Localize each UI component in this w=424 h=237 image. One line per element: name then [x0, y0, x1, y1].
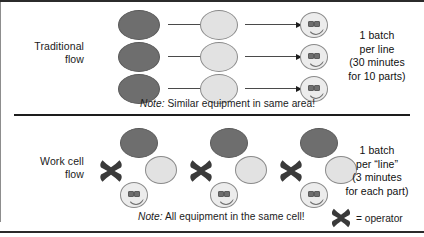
note-traditional-prefix: Note: — [140, 98, 165, 109]
traditional-line1-arrow2 — [245, 21, 303, 29]
section-divider-rule — [14, 114, 410, 116]
callout-workcell-line2: per “line” — [334, 158, 420, 172]
note-work-cell-flow: Note: All equipment in the same cell! — [138, 211, 305, 222]
traditional-line2-stage1-machine — [118, 42, 160, 72]
traditional-line2-arrow2 — [245, 53, 303, 61]
workcell-1-operator-cross-icon — [98, 158, 124, 184]
workcell-1-machine-light — [145, 156, 177, 184]
note-workcell-text: All equipment in the same cell! — [163, 211, 305, 222]
callout-traditional-line4: for 10 parts) — [334, 70, 420, 84]
callout-workcell-line4: for each part) — [334, 185, 420, 199]
bottom-border-rule — [0, 231, 424, 233]
traditional-line1-stage1-machine — [118, 10, 160, 40]
traditional-line2-stage2-machine — [200, 42, 238, 72]
traditional-line3-arrow2 — [245, 85, 303, 93]
workcell-2-machine-dark — [210, 128, 248, 158]
note-traditional-text: Similar equipment in same area! — [165, 98, 316, 109]
workcell-2-inspection — [210, 182, 238, 208]
smiley-mouth-icon — [127, 194, 145, 205]
row-label-traditional-line1: Traditional — [8, 40, 84, 53]
callout-traditional-line3: (30 minutes — [334, 56, 420, 70]
legend: = operator — [330, 207, 403, 229]
callout-traditional-line2: per line — [334, 43, 420, 57]
traditional-line1-stage2-machine — [200, 10, 238, 40]
workcell-3-machine-dark — [300, 128, 338, 158]
traditional-line2-stage3-inspection — [300, 44, 328, 70]
traditional-line1-stage3-inspection — [300, 12, 328, 38]
smiley-mouth-icon — [307, 56, 325, 67]
callout-work-cell-flow: 1 batch per “line” (3 minutes for each p… — [334, 144, 420, 198]
note-workcell-prefix: Note: — [138, 211, 163, 222]
top-border-rule — [0, 0, 424, 2]
workcell-1-inspection — [120, 182, 148, 208]
row-label-traditional-flow: Traditional flow — [8, 40, 84, 66]
workcell-3-inspection — [300, 182, 328, 208]
workcell-3-operator-cross-icon — [278, 158, 304, 184]
smiley-mouth-icon — [217, 194, 235, 205]
workcell-1-machine-dark — [120, 128, 158, 158]
smiley-mouth-icon — [307, 194, 325, 205]
callout-traditional-flow: 1 batch per line (30 minutes for 10 part… — [334, 29, 420, 83]
callout-workcell-line3: (3 minutes — [334, 171, 420, 185]
workcell-2-operator-cross-icon — [188, 158, 214, 184]
note-traditional-flow: Note: Similar equipment in same area! — [140, 98, 315, 109]
row-label-work-cell-flow: Work cell flow — [8, 155, 84, 181]
workcell-2-machine-light — [235, 156, 267, 184]
legend-label: = operator — [356, 213, 403, 224]
smiley-mouth-icon — [307, 24, 325, 35]
legend-operator-cross-icon — [330, 207, 352, 229]
callout-workcell-line1: 1 batch — [334, 144, 420, 158]
row-label-workcell-line1: Work cell — [8, 155, 84, 168]
process-flow-diagram: Traditional flow — [0, 0, 424, 237]
row-label-workcell-line2: flow — [8, 168, 84, 181]
callout-traditional-line1: 1 batch — [334, 29, 420, 43]
row-label-traditional-line2: flow — [8, 53, 84, 66]
label-column-divider — [0, 0, 1, 222]
